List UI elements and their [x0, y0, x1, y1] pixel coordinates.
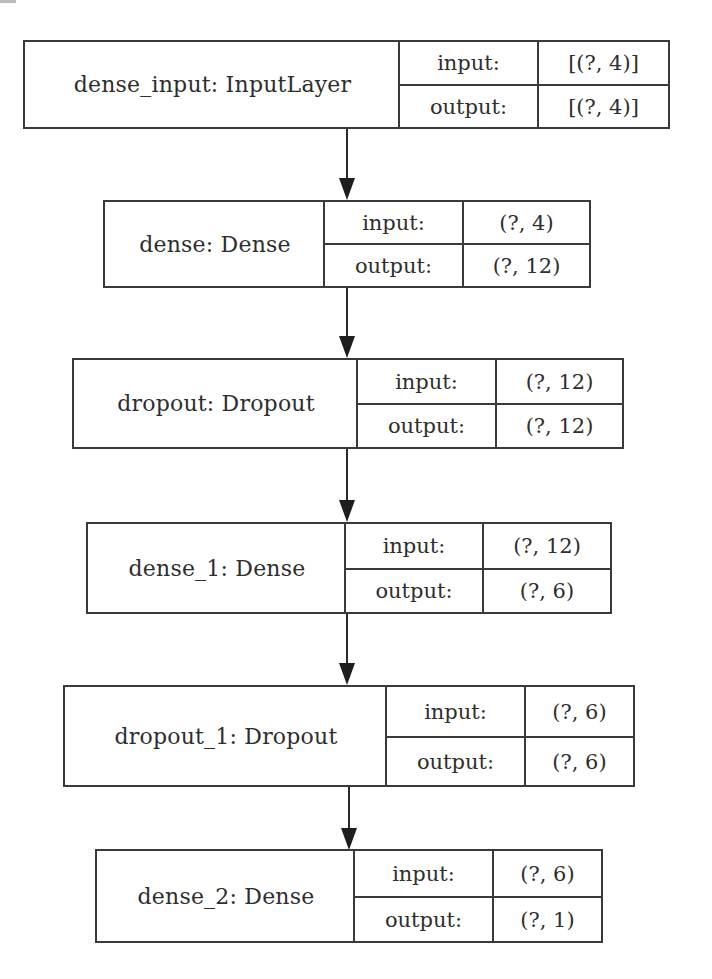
arrowhead-icon: [339, 336, 355, 358]
node-name: dropout: Dropout: [74, 360, 358, 447]
node-dense-2: dense_2: Dense input: (?, 6) output: (?,…: [95, 849, 603, 943]
arrowhead-icon: [341, 828, 357, 850]
output-label: output:: [355, 898, 492, 941]
output-shape: (?, 12): [497, 405, 622, 447]
input-label: input:: [325, 202, 462, 243]
node-name: dropout_1: Dropout: [65, 687, 387, 785]
output-shape: [(?, 4)]: [539, 86, 668, 127]
node-name: dense: Dense: [105, 202, 325, 286]
output-label: output:: [346, 570, 482, 612]
input-label: input:: [387, 687, 524, 736]
edge-arrow: [348, 787, 350, 829]
arrowhead-icon: [339, 663, 355, 685]
input-label: input:: [400, 42, 537, 84]
input-shape: [(?, 4)]: [539, 42, 668, 84]
node-name: dense_1: Dense: [88, 524, 346, 612]
input-shape: (?, 12): [497, 360, 622, 403]
output-shape: (?, 6): [526, 738, 633, 785]
input-label: input:: [355, 851, 492, 896]
node-dense: dense: Dense input: (?, 4) output: (?, 1…: [103, 200, 591, 288]
edge-arrow: [346, 129, 348, 179]
output-shape: (?, 1): [494, 898, 601, 941]
input-label: input:: [346, 524, 482, 568]
output-shape: (?, 6): [484, 570, 610, 612]
edge-arrow: [346, 614, 348, 664]
output-label: output:: [358, 405, 495, 447]
input-shape: (?, 4): [464, 202, 589, 243]
output-label: output:: [387, 738, 524, 785]
edge-arrow: [346, 449, 348, 501]
input-shape: (?, 12): [484, 524, 610, 568]
edge-arrow: [346, 288, 348, 338]
node-dense-1: dense_1: Dense input: (?, 12) output: (?…: [86, 522, 612, 614]
node-dense-input: dense_input: InputLayer input: [(?, 4)] …: [23, 40, 670, 129]
output-shape: (?, 12): [464, 245, 589, 286]
input-label: input:: [358, 360, 495, 403]
output-label: output:: [400, 86, 537, 127]
input-shape: (?, 6): [494, 851, 601, 896]
node-name: dense_2: Dense: [97, 851, 355, 941]
node-name: dense_input: InputLayer: [25, 42, 400, 127]
input-shape: (?, 6): [526, 687, 633, 736]
arrowhead-icon: [339, 178, 355, 200]
node-dropout-1: dropout_1: Dropout input: (?, 6) output:…: [63, 685, 635, 787]
arrowhead-icon: [339, 500, 355, 522]
node-dropout: dropout: Dropout input: (?, 12) output: …: [72, 358, 624, 449]
output-label: output:: [325, 245, 462, 286]
crop-artifact: [0, 0, 16, 3]
